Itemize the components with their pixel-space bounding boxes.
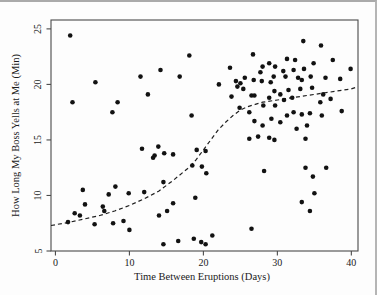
data-point	[300, 78, 305, 83]
data-point	[261, 103, 266, 108]
data-point	[300, 112, 305, 117]
data-point	[293, 58, 298, 63]
data-point	[312, 191, 317, 196]
data-point	[140, 147, 145, 152]
data-point	[92, 222, 97, 227]
data-point	[305, 123, 310, 128]
data-point	[101, 204, 106, 209]
y-tick-label: 5	[33, 249, 44, 254]
data-point	[237, 105, 242, 110]
data-point	[286, 88, 291, 93]
data-point	[171, 201, 176, 206]
data-point	[311, 61, 316, 66]
data-point	[171, 152, 176, 157]
data-point	[78, 213, 83, 218]
data-point	[321, 92, 326, 97]
data-point	[272, 89, 277, 94]
data-point	[193, 195, 198, 200]
data-point	[210, 233, 215, 238]
data-point	[310, 85, 315, 90]
data-point	[192, 237, 197, 242]
data-point	[311, 174, 316, 179]
data-point	[331, 58, 336, 63]
data-point	[234, 79, 239, 84]
y-tick-label: 25	[33, 24, 44, 34]
data-point	[272, 138, 277, 143]
data-point	[200, 164, 205, 169]
data-point	[268, 80, 273, 85]
data-point	[106, 192, 111, 197]
data-point	[162, 151, 167, 156]
data-point	[238, 81, 243, 86]
data-point	[303, 165, 308, 170]
x-tick-label: 0	[53, 257, 58, 268]
data-point	[348, 67, 353, 72]
data-point	[285, 57, 290, 62]
data-point	[161, 242, 166, 247]
data-point	[323, 76, 328, 81]
data-point	[115, 100, 120, 105]
data-point	[83, 202, 88, 207]
data-point	[157, 213, 162, 218]
data-point	[283, 74, 288, 79]
data-points	[66, 33, 353, 246]
data-point	[70, 100, 75, 105]
x-tick-label: 30	[272, 257, 282, 268]
data-point	[258, 70, 263, 75]
data-point	[256, 134, 261, 139]
data-point	[338, 77, 343, 82]
y-tick-label: 20	[33, 79, 44, 89]
data-point	[252, 93, 257, 98]
data-point	[267, 135, 272, 140]
data-point	[102, 209, 107, 214]
data-point	[177, 74, 182, 79]
data-point	[110, 110, 115, 115]
data-point	[281, 69, 286, 74]
data-point	[189, 113, 194, 118]
data-point	[328, 97, 333, 102]
data-point	[126, 191, 131, 196]
data-point	[190, 163, 195, 168]
data-point	[301, 39, 306, 44]
data-point	[273, 103, 278, 108]
data-point	[260, 64, 265, 69]
data-point	[318, 100, 323, 105]
data-point	[146, 92, 151, 97]
data-point	[111, 221, 116, 226]
data-point	[308, 209, 313, 214]
data-point	[247, 137, 252, 142]
data-point	[72, 211, 77, 216]
data-point	[278, 92, 283, 97]
x-tick-label: 20	[198, 257, 208, 268]
data-point	[152, 153, 157, 158]
data-point	[127, 228, 132, 233]
y-tick-label: 10	[33, 190, 44, 200]
x-axis-title: Time Between Eruptions (Days)	[134, 271, 270, 283]
data-point	[260, 123, 265, 128]
data-point	[260, 79, 265, 84]
data-point	[251, 52, 256, 57]
data-point	[138, 74, 143, 79]
plot-frame	[51, 20, 358, 251]
data-point	[298, 87, 303, 92]
data-point	[228, 66, 233, 71]
y-axis-title: How Long My Boss Yells at Me (Min)	[10, 54, 22, 217]
data-point	[324, 165, 329, 170]
data-point	[291, 110, 296, 115]
y-tick-label: 15	[33, 135, 44, 145]
data-point	[285, 113, 290, 118]
x-axis-ticks: 010203040	[53, 251, 356, 268]
data-point	[269, 117, 274, 122]
data-point	[203, 242, 208, 247]
data-point	[203, 149, 208, 154]
data-point	[165, 209, 170, 214]
data-point	[320, 113, 325, 118]
data-point	[302, 67, 307, 72]
data-point	[66, 220, 71, 225]
data-point	[199, 240, 204, 245]
data-point	[294, 127, 299, 132]
data-point	[252, 119, 257, 124]
data-point	[308, 111, 313, 116]
data-point	[291, 68, 296, 73]
data-point	[113, 184, 118, 189]
